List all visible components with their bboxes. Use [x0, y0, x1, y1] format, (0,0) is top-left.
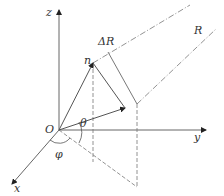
coordinate-diagram: z y x O θ φ n ΔR R — [0, 0, 224, 196]
phi-arc — [50, 138, 70, 143]
y-axis-label: y — [193, 131, 201, 144]
ray-upper — [93, 5, 190, 63]
theta-label: θ — [80, 117, 87, 130]
origin-label: O — [45, 123, 54, 136]
n-label: n — [84, 54, 91, 67]
delta-r-label: ΔR — [97, 35, 114, 48]
r-label: R — [193, 24, 202, 37]
ray-lower — [137, 29, 216, 104]
x-axis-label: x — [14, 182, 21, 195]
x-axis — [12, 130, 59, 184]
projection-line — [59, 130, 137, 187]
z-axis-label: z — [45, 6, 52, 19]
delta-r-cross — [108, 52, 137, 104]
delta-r-segment — [93, 63, 125, 108]
phi-label: φ — [55, 148, 63, 161]
